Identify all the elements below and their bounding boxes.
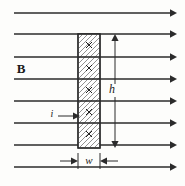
diagram-canvas: h w i B [0, 0, 185, 186]
dimension-w-label: w [85, 154, 93, 166]
field-line-8 [14, 163, 177, 171]
magnetic-field-diagram: h w i B [0, 0, 185, 186]
current-label: i [51, 108, 54, 119]
field-line-1 [14, 9, 177, 17]
field-label-b: B [17, 61, 26, 76]
dimension-h-label: h [109, 82, 115, 96]
dimension-h: h [109, 34, 119, 148]
current-indicator: i [51, 108, 80, 119]
